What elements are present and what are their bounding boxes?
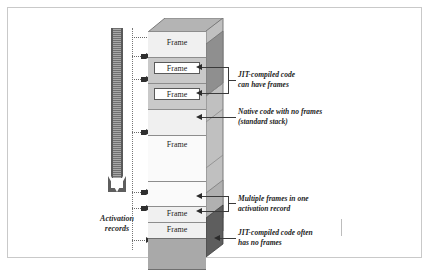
stack-side-face: [206, 18, 223, 258]
leader-nub-seg-3: [141, 77, 146, 82]
activation-records-line2: records: [105, 224, 129, 233]
frame-box-7: Frame: [154, 208, 200, 220]
frame-box-2: Frame: [154, 62, 200, 74]
callout-line-multiframe-a: [202, 196, 228, 197]
frame-box-8: Frame: [154, 224, 200, 236]
stack-block: Frame Frame Frame Frame Frame Frame: [148, 18, 240, 258]
stack-segment-9: [148, 238, 206, 270]
callout-stem-multiframe: [228, 203, 236, 204]
leader-nub-seg-5: [141, 130, 146, 135]
arrow-shaft-icon: [111, 28, 123, 178]
activation-records-arrow: [108, 28, 126, 208]
callout-line-multiframe-b: [202, 211, 228, 212]
leader-nub-seg-7: [141, 190, 146, 195]
callout-label-native-no-frames: Native code with no frames (standard sta…: [238, 107, 368, 126]
frame-box-1: Frame: [154, 37, 200, 49]
leader-seg-1: [132, 37, 147, 38]
callout-line-jit-frames-a: [202, 67, 228, 68]
callout-stem-jit-frames: [228, 80, 236, 81]
frame-box-5: Frame: [154, 139, 200, 151]
frame-box-3: Frame: [154, 88, 200, 100]
callout-line-native: [202, 117, 236, 118]
leader-spine: [132, 28, 133, 250]
callout-line-jit-often: [220, 238, 236, 239]
callout-label-jit-often-no-frames: JIT-compiled code often has no frames: [238, 228, 350, 247]
callout-line-jit-frames-b: [202, 93, 228, 94]
leader-seg-9: [132, 240, 147, 241]
leader-nub-seg-2: [141, 54, 146, 59]
leader-nub-seg-8: [141, 206, 146, 211]
stack-side-face-shape: [206, 18, 224, 259]
activation-records-line1: Activation: [100, 214, 134, 223]
arrow-head-inner-icon: [111, 176, 123, 188]
callout-label-jit-can-have-frames: JIT-compiled code can have frames: [238, 70, 330, 89]
stray-tick-mark: [341, 219, 342, 236]
callout-label-multiple-frames: Multiple frames in one activation record: [238, 194, 348, 213]
stack-segment-4: [148, 109, 206, 135]
callout-bracket-multiframe: [228, 196, 229, 212]
